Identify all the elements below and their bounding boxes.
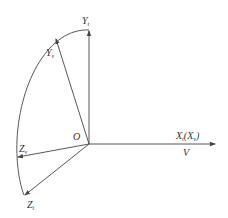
- label-zv: Zv: [19, 143, 28, 155]
- label-origin: O: [73, 131, 80, 142]
- label-velocity: V: [183, 147, 191, 158]
- label-zt: Zt: [27, 199, 35, 211]
- axis-zt: [25, 144, 89, 195]
- label-xt: Xt(Xv): [175, 130, 200, 142]
- coordinate-diagram: Yt Yv O Xt(Xv) V Zv Zt: [0, 0, 228, 218]
- axis-zv: [18, 144, 89, 157]
- label-yv: Yv: [46, 47, 55, 59]
- label-yt: Yt: [82, 15, 90, 27]
- axis-yv: [56, 39, 89, 144]
